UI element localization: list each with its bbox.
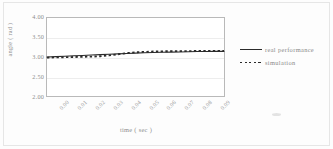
x-axis-tick-label: 0.01	[76, 99, 88, 111]
y-axis-tick-label: 3.50	[14, 33, 44, 41]
x-axis-tick-labels: 0.000.010.020.030.040.050.060.070.080.09	[46, 99, 225, 123]
x-axis-tick-label: 0.03	[112, 99, 124, 111]
x-axis-tick-label: 0.06	[166, 99, 178, 111]
legend-swatch-solid	[240, 46, 262, 53]
y-axis-tick-label: 4.00	[14, 13, 44, 21]
x-axis-tick-label: 0.08	[201, 99, 213, 111]
legend-swatch-dotted	[240, 59, 262, 66]
legend-label: real performance	[265, 46, 314, 53]
y-axis-tick-label: 2.50	[14, 73, 44, 81]
x-axis-tick-label: 0.07	[184, 99, 196, 111]
y-axis-tick-label: 3.00	[14, 53, 44, 61]
legend-label: simulation	[265, 59, 295, 66]
series-line-real-performance	[47, 51, 224, 57]
x-axis-tick-label: 0.09	[219, 99, 231, 111]
chart-figure: angle ( rad ) 4.003.503.002.502.00 0.000…	[0, 0, 333, 149]
x-axis-title: time ( sec )	[76, 126, 196, 133]
x-axis-tick-label: 0.02	[94, 99, 106, 111]
x-axis-tick-label: 0.04	[130, 99, 142, 111]
x-axis-tick-label: 0.05	[148, 99, 160, 111]
plot-area	[46, 17, 225, 97]
x-axis-tick-label: 0.00	[58, 99, 70, 111]
y-axis-title: angle ( rad )	[6, 14, 13, 66]
scan-artifact	[272, 113, 281, 116]
data-series-layer	[47, 18, 224, 96]
y-axis-tick-label: 2.00	[14, 93, 44, 101]
legend-entry: simulation	[240, 56, 332, 68]
legend-entry: real performance	[240, 43, 332, 55]
chart-legend: real performancesimulation	[240, 43, 332, 69]
y-axis-tick-labels: 4.003.503.002.502.00	[14, 11, 44, 103]
